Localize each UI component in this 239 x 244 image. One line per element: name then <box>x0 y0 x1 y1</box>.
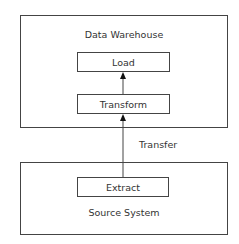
load-arrowhead-icon <box>120 72 126 79</box>
transfer-arrowhead-icon <box>120 114 126 121</box>
arrows <box>0 0 239 244</box>
